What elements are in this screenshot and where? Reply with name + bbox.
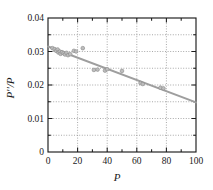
data-point xyxy=(162,87,166,91)
y-tick-label: 0.02 xyxy=(27,80,44,90)
data-point xyxy=(120,69,124,73)
y-tick-label: 0.04 xyxy=(27,13,44,23)
y-tick-label: 0.01 xyxy=(27,114,44,124)
chart-figure: 020406080100 00.010.020.030.04 P P''/P xyxy=(0,0,213,190)
x-tick-label: 100 xyxy=(189,156,204,166)
y-axis-label: P''/P xyxy=(4,77,16,99)
x-tick-label: 60 xyxy=(132,156,142,166)
data-point xyxy=(96,68,100,72)
data-point xyxy=(81,46,85,50)
data-point xyxy=(105,67,109,71)
data-point xyxy=(141,82,145,86)
x-tick-label: 80 xyxy=(162,156,172,166)
data-point xyxy=(92,68,96,72)
x-tick-label: 20 xyxy=(73,156,83,166)
x-axis-label: P xyxy=(113,171,121,183)
x-tick-label: 40 xyxy=(102,156,112,166)
y-tick-label: 0.03 xyxy=(27,47,44,57)
x-tick-label: 0 xyxy=(46,156,51,166)
y-tick-label: 0 xyxy=(39,147,44,157)
data-point xyxy=(74,50,78,54)
data-point xyxy=(68,52,72,56)
scatter-plot: 020406080100 00.010.020.030.04 P P''/P xyxy=(0,0,213,190)
